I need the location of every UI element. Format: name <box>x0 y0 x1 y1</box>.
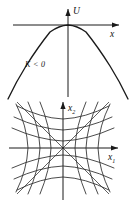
potential-u-axis-arrowhead <box>65 9 70 16</box>
potential-energy-panel: U x K < 0 <box>0 0 129 100</box>
potential-energy-svg: U x K < 0 <box>0 0 129 100</box>
figure-root: U x K < 0 <box>0 0 129 204</box>
phase-x1-axis-label: x1 <box>107 152 115 164</box>
potential-x-axis-arrowhead <box>112 22 119 27</box>
potential-x-axis-label: x <box>109 29 115 39</box>
phase-portrait-svg: x2 x1 <box>0 100 129 204</box>
phase-portrait-panel: x2 x1 <box>0 100 129 204</box>
potential-condition-annotation: K < 0 <box>24 60 45 69</box>
phase-x2-axis-arrowhead <box>60 102 65 109</box>
phase-x2-axis-label-subscript: 2 <box>72 109 75 115</box>
phase-x2-axis-label: x2 <box>67 103 75 115</box>
phase-x1-axis-arrowhead <box>111 145 118 150</box>
potential-u-axis-label: U <box>73 6 81 16</box>
phase-x1-axis-label-subscript: 1 <box>112 158 115 164</box>
